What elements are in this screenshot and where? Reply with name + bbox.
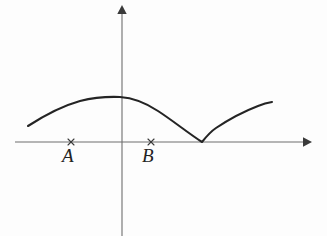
y-axis-arrow-icon: [117, 5, 126, 14]
plot-canvas: [0, 0, 327, 236]
point-label-b: B: [142, 146, 154, 165]
graph-figure: A B: [0, 0, 327, 236]
function-curve: [28, 97, 272, 142]
point-label-a: A: [62, 146, 74, 165]
x-axis-arrow-icon: [303, 137, 312, 147]
